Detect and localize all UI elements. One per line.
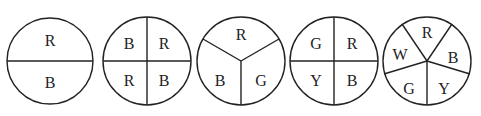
sector-label: G [310, 35, 322, 52]
sector-label: G [403, 80, 415, 97]
sector-label: B [215, 72, 226, 89]
sector-label: R [347, 35, 358, 52]
sector-label: R [159, 35, 170, 52]
spinner-figure: RBBRRBRBGGRYBRWBGY [0, 0, 481, 116]
sector-label: B [124, 35, 135, 52]
sector-label: B [347, 72, 358, 89]
spinner-5: RWBGY [383, 17, 471, 105]
sector-label: R [124, 72, 135, 89]
spinner-2: BRRB [103, 17, 191, 105]
sector-label: W [392, 46, 408, 63]
sector-label: G [255, 72, 267, 89]
sector-label: Y [438, 80, 450, 97]
sector-label: B [448, 49, 459, 66]
sector-divider [241, 39, 279, 61]
spinner-4: GRYB [290, 17, 378, 105]
sector-divider [384, 61, 427, 74]
sector-label: R [236, 26, 247, 43]
spinner-3: RBG [197, 17, 285, 105]
sector-label: R [45, 32, 56, 49]
sector-label: Y [310, 72, 322, 89]
sector-label: B [159, 72, 170, 89]
sector-label: B [45, 74, 56, 91]
sector-label: R [422, 24, 433, 41]
spinner-1: RB [7, 18, 93, 104]
